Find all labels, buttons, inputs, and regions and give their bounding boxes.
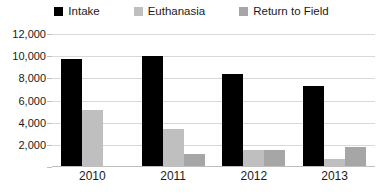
legend-item-return-to-field[interactable]: Return to Field bbox=[239, 6, 328, 18]
bar-chart: IntakeEuthanasiaReturn to Field 12,00010… bbox=[0, 0, 383, 195]
legend-item-euthanasia[interactable]: Euthanasia bbox=[134, 6, 206, 18]
x-axis-tick-label: 2013 bbox=[294, 170, 375, 182]
bar-euthanasia-2012[interactable] bbox=[243, 150, 264, 167]
bar-intake-2011[interactable] bbox=[142, 56, 163, 167]
legend-label: Euthanasia bbox=[148, 6, 206, 18]
y-axis-tick-label: 4,000 bbox=[18, 117, 46, 128]
bar-group-2011 bbox=[133, 34, 214, 167]
bar-groups bbox=[52, 34, 375, 167]
y-axis-labels: 12,00010,0008,0006,0004,0002,000 bbox=[0, 34, 46, 167]
x-axis-labels: 2010201120122013 bbox=[52, 170, 375, 182]
bar-return-to-field-2011[interactable] bbox=[184, 154, 205, 167]
bar-euthanasia-2011[interactable] bbox=[163, 129, 184, 167]
legend-item-intake[interactable]: Intake bbox=[54, 6, 99, 18]
y-axis-tick-label: 10,000 bbox=[12, 51, 46, 62]
bar-return-to-field-2012[interactable] bbox=[264, 150, 285, 167]
y-axis-tick-label: 2,000 bbox=[18, 139, 46, 150]
bar-return-to-field-2013[interactable] bbox=[345, 147, 366, 167]
legend-label: Return to Field bbox=[253, 6, 328, 18]
bar-intake-2010[interactable] bbox=[61, 59, 82, 167]
plot-area bbox=[52, 34, 375, 167]
legend-swatch-icon bbox=[54, 7, 63, 16]
bar-group-2012 bbox=[214, 34, 295, 167]
bar-group-2013 bbox=[294, 34, 375, 167]
x-axis-tick-label: 2010 bbox=[52, 170, 133, 182]
chart-legend: IntakeEuthanasiaReturn to Field bbox=[0, 6, 383, 18]
y-axis-tick-label: 6,000 bbox=[18, 95, 46, 106]
x-axis-line bbox=[52, 166, 375, 167]
bar-euthanasia-2010[interactable] bbox=[82, 110, 103, 167]
bar-intake-2013[interactable] bbox=[303, 86, 324, 167]
bar-intake-2012[interactable] bbox=[222, 74, 243, 167]
y-axis-tick bbox=[47, 167, 52, 168]
y-axis-tick-label: 12,000 bbox=[12, 29, 46, 40]
x-axis-tick-label: 2011 bbox=[133, 170, 214, 182]
bar-group-2010 bbox=[52, 34, 133, 167]
legend-label: Intake bbox=[68, 6, 99, 18]
x-axis-tick-label: 2012 bbox=[214, 170, 295, 182]
legend-swatch-icon bbox=[239, 7, 248, 16]
legend-swatch-icon bbox=[134, 7, 143, 16]
y-axis-tick-label: 8,000 bbox=[18, 73, 46, 84]
